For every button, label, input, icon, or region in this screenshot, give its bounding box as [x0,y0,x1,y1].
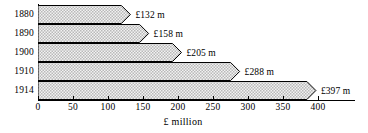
category-label-1910: 1910 [0,66,34,76]
value-label-1890: £158 m [154,29,183,39]
bar-1910 [38,62,241,81]
bar-1890 [38,24,150,43]
x-axis-title: £ million [0,116,368,127]
x-tick-label: 250 [206,102,221,112]
x-tick-mark [178,96,179,101]
plot-area: 1880 1890 1900 1910 1914 £132 m £158 m £… [0,0,368,133]
bar-row [38,62,241,81]
category-label-1914: 1914 [0,85,34,95]
x-axis-line [38,100,355,101]
x-tick-mark [143,96,144,101]
bar-row [38,24,150,43]
x-tick-mark [73,96,74,101]
x-tick-mark [38,96,39,101]
x-tick-label: 300 [241,102,256,112]
bar-1880 [38,5,131,24]
x-tick-label: 400 [311,102,326,112]
x-tick-mark [213,96,214,101]
value-label-1900: £205 m [187,48,216,58]
bar-row [38,43,183,62]
x-tick-mark [248,96,249,101]
x-tick-mark [318,96,319,101]
category-label-1880: 1880 [0,9,34,19]
value-label-1910: £288 m [245,67,274,77]
x-tick-label: 0 [36,102,41,112]
bar-1900 [38,43,183,62]
category-label-1890: 1890 [0,28,34,38]
bar-chart: 1880 1890 1900 1910 1914 £132 m £158 m £… [0,0,368,133]
category-label-1900: 1900 [0,47,34,57]
x-tick-label: 350 [276,102,291,112]
x-tick-label: 50 [68,102,78,112]
value-label-1914: £397 m [321,86,350,96]
bar-row [38,5,131,24]
x-tick-label: 150 [136,102,151,112]
x-axis-title-text: £ million [163,116,202,127]
x-tick-mark [283,96,284,101]
value-label-1880: £132 m [135,10,164,20]
x-tick-mark [108,96,109,101]
x-tick-label: 100 [101,102,116,112]
x-tick-label: 200 [171,102,186,112]
